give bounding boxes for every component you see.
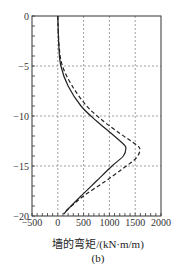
figure-caption: (b)	[0, 252, 182, 264]
x-tick-label: 1000	[99, 217, 119, 228]
x-tick-label: 1500	[125, 217, 145, 228]
y-tick-label: −10	[13, 111, 29, 122]
y-tick-label: −5	[18, 61, 29, 72]
series-solid-line	[58, 16, 126, 214]
y-tick-label: 0	[24, 11, 29, 22]
y-tick-label: −15	[13, 161, 29, 172]
series-dashed-line	[58, 16, 140, 214]
x-axis-label: 墙的弯矩/(kN·m/m)	[0, 235, 182, 251]
moment-chart: −50005001000150020000−5−10−15−20	[0, 0, 182, 273]
x-tick-label: 2000	[151, 217, 171, 228]
x-tick-label: 0	[55, 217, 60, 228]
y-tick-label: −20	[13, 211, 29, 222]
x-tick-label: 500	[76, 217, 91, 228]
